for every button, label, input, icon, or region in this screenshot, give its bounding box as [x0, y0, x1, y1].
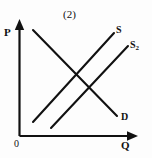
supply-curve	[33, 33, 114, 122]
supply-shifted-curve-label: S2	[130, 40, 139, 50]
figure-canvas	[0, 0, 152, 158]
y-axis	[15, 19, 24, 136]
supply-curve-label: S	[116, 25, 122, 35]
demand-curve-label: D	[121, 112, 128, 122]
supply-shifted-curve-label-base: S	[130, 39, 136, 50]
y-axis-label: P	[4, 27, 11, 38]
figure-title: (2)	[63, 9, 76, 20]
supply-shifted-curve-label-subscript: 2	[136, 44, 140, 52]
origin-label: 0	[14, 139, 19, 149]
x-axis-label: Q	[121, 140, 130, 151]
supply-demand-figure: (2) P Q 0 S S2 D	[0, 0, 152, 158]
